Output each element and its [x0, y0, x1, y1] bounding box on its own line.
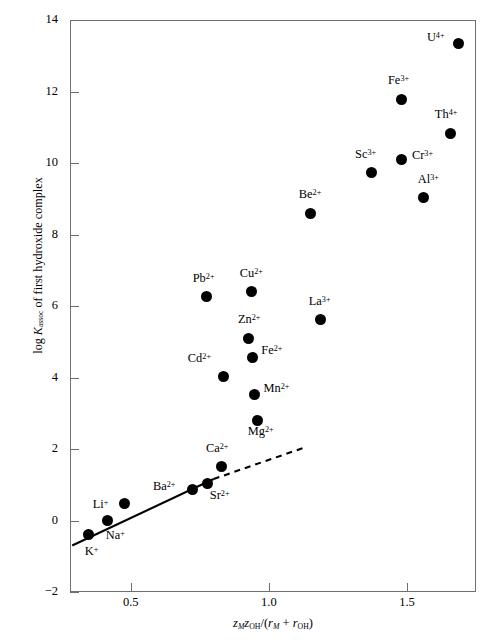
data-point-label: Fe2+	[261, 342, 282, 357]
data-point-label: La3+	[309, 293, 331, 308]
data-point-charge: +	[104, 498, 109, 507]
data-point-element-symbol: Cu	[240, 266, 254, 280]
y-tick-mark	[70, 449, 79, 450]
x-axis-z-oh-sub: OH	[249, 622, 260, 631]
x-tick-label: 1.5	[377, 596, 437, 609]
data-point-label: Cu2+	[240, 265, 263, 280]
data-point-element-symbol: Fe	[261, 344, 273, 358]
data-point-element-symbol: Pb	[193, 271, 206, 285]
data-point-element-symbol: Cd	[188, 352, 202, 366]
data-point-element-symbol: Al	[418, 172, 430, 186]
data-point-charge: 2+	[274, 344, 283, 353]
data-point-marker	[396, 94, 407, 105]
data-point-element-symbol: K	[85, 544, 94, 558]
data-point-charge: +	[94, 545, 99, 554]
data-point-label: Be2+	[299, 186, 321, 201]
data-point-element-symbol: Ca	[206, 442, 220, 456]
y-axis-title-prefix: log	[31, 335, 45, 354]
data-point-label: K+	[85, 543, 99, 558]
data-point-label: Cd2+	[188, 350, 211, 365]
data-point-label: Sr2+	[210, 487, 230, 502]
data-point-element-symbol: Ba	[153, 479, 167, 493]
data-point-label: Ba2+	[153, 478, 175, 493]
x-tick-mark	[407, 583, 408, 592]
data-point-charge: 2+	[281, 382, 290, 391]
data-point-element-symbol: Be	[299, 188, 313, 202]
y-tick-label: 12	[28, 85, 58, 98]
data-point-element-symbol: Li	[93, 497, 104, 511]
y-axis-title: log Kassoc of first hydroxide complex	[31, 116, 46, 416]
data-point-label: Zn2+	[238, 311, 260, 326]
data-point-label: Mg2+	[248, 423, 274, 438]
y-tick-mark	[70, 20, 79, 21]
data-point-element-symbol: Sc	[355, 147, 367, 161]
x-tick-label: 0.5	[101, 596, 161, 609]
scatter-plot-figure: 14121086420−2 0.51.01.5 K+Na+Li+Ba2+Sr2+…	[0, 0, 489, 642]
x-tick-label: 1.0	[239, 596, 299, 609]
data-point-charge: 3+	[400, 74, 409, 83]
data-point-marker	[247, 352, 258, 363]
data-point-element-symbol: Mg	[248, 424, 265, 438]
data-point-charge: 2+	[252, 313, 261, 322]
data-point-element-symbol: Cr	[412, 149, 424, 163]
data-point-marker	[366, 167, 377, 178]
y-tick-label: 14	[28, 13, 58, 26]
data-point-label: Al3+	[418, 171, 439, 186]
data-point-charge: 3+	[322, 295, 331, 304]
data-point-charge: 4+	[449, 108, 458, 117]
data-point-charge: 2+	[206, 272, 215, 281]
data-point-marker	[216, 461, 227, 472]
data-point-marker	[187, 484, 198, 495]
y-tick-label: 2	[28, 442, 58, 455]
data-point-charge: 3+	[367, 148, 376, 157]
data-point-label: Th4+	[435, 106, 457, 121]
data-point-label: Li+	[93, 496, 109, 511]
x-axis-slash-paren: /(	[260, 616, 268, 630]
data-point-element-symbol: Sr	[210, 488, 221, 502]
y-tick-label: 0	[28, 514, 58, 527]
data-point-label: U4+	[427, 29, 445, 44]
data-point-charge: 2+	[313, 188, 322, 197]
y-tick-label: −2	[28, 585, 58, 598]
data-point-element-symbol: Th	[435, 108, 449, 122]
data-point-charge: 4+	[436, 31, 445, 40]
y-tick-mark	[70, 92, 79, 93]
data-point-charge: 2+	[202, 352, 211, 361]
x-tick-mark	[131, 583, 132, 592]
data-point-element-symbol: Na	[106, 528, 120, 542]
y-axis-title-suffix: of first hydroxide complex	[31, 177, 45, 310]
x-axis-plus: +	[279, 616, 292, 630]
x-tick-mark	[269, 583, 270, 592]
data-point-charge: 3+	[424, 149, 433, 158]
y-tick-mark	[70, 306, 79, 307]
y-tick-mark	[70, 592, 79, 593]
data-point-label: Fe3+	[388, 72, 409, 87]
data-point-label: Sc3+	[355, 146, 376, 161]
plot-area-frame	[70, 20, 476, 592]
data-point-charge: +	[120, 529, 125, 538]
data-point-label: Mn2+	[263, 380, 289, 395]
data-point-element-symbol: La	[309, 295, 322, 309]
data-point-label: Cr3+	[412, 147, 433, 162]
data-point-label: Ca2+	[206, 440, 228, 455]
data-point-charge: 2+	[265, 425, 274, 434]
y-tick-mark	[70, 378, 79, 379]
data-point-charge: 3+	[430, 173, 439, 182]
x-axis-title: zMzOH/(rM + rOH)	[123, 616, 423, 631]
data-point-marker	[315, 314, 326, 325]
data-point-label: Pb2+	[193, 270, 215, 285]
data-point-element-symbol: U	[427, 31, 436, 45]
y-tick-mark	[70, 235, 79, 236]
x-axis-r-oh-sub: OH	[298, 622, 309, 631]
data-point-element-symbol: Zn	[238, 313, 252, 327]
y-axis-title-k: K	[31, 327, 45, 335]
y-axis-title-subscript: assoc	[36, 311, 45, 327]
data-point-charge: 2+	[254, 267, 263, 276]
y-tick-mark	[70, 163, 79, 164]
x-axis-close-paren: )	[309, 616, 313, 630]
data-point-charge: 2+	[220, 442, 229, 451]
data-point-charge: 2+	[221, 489, 230, 498]
data-point-element-symbol: Fe	[388, 73, 400, 87]
y-tick-mark	[70, 521, 79, 522]
data-point-charge: 2+	[167, 480, 176, 489]
